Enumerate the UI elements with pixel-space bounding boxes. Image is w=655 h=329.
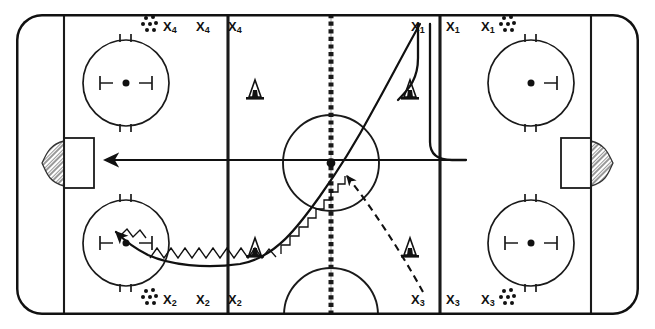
player-label-x2-3: X2 <box>228 293 242 306</box>
player-label-x3-3: X3 <box>481 293 495 306</box>
player-label-x1-1: X1 <box>411 20 425 33</box>
player-label-x2-2: X2 <box>196 293 210 306</box>
player-label-x1-3: X1 <box>481 20 495 33</box>
player-label-x3-1: X3 <box>411 293 425 306</box>
player-label-x4-2: X4 <box>196 20 210 33</box>
player-label-x3-2: X3 <box>446 293 460 306</box>
rink-surface <box>0 0 655 329</box>
hockey-drill-diagram: X4 X4 X4 X1 X1 X1 X2 X2 X2 X3 X3 X3 <box>0 0 655 329</box>
player-label-x4-3: X4 <box>228 20 242 33</box>
player-label-x2-1: X2 <box>163 293 177 306</box>
player-label-x4-1: X4 <box>163 20 177 33</box>
player-label-x1-2: X1 <box>446 20 460 33</box>
